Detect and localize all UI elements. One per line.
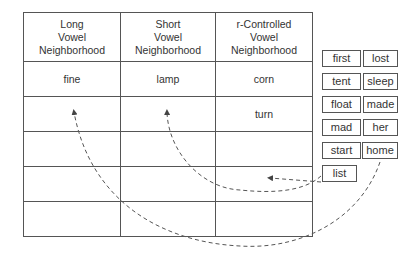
word-card-made[interactable]: made	[363, 96, 398, 113]
word-card-home[interactable]: home	[362, 142, 398, 159]
word-card-start[interactable]: start	[322, 142, 361, 159]
word-card-first[interactable]: first	[322, 50, 361, 67]
word-card-sleep[interactable]: sleep	[363, 73, 398, 90]
word-card-float[interactable]: float	[322, 96, 361, 113]
word-card-lost[interactable]: lost	[363, 50, 398, 67]
word-card-her[interactable]: her	[363, 119, 398, 136]
word-card-tent[interactable]: tent	[322, 73, 361, 90]
word-card-list[interactable]: list	[322, 165, 357, 182]
word-card-mad[interactable]: mad	[322, 119, 361, 136]
arrow-list-to-short	[167, 112, 321, 191]
